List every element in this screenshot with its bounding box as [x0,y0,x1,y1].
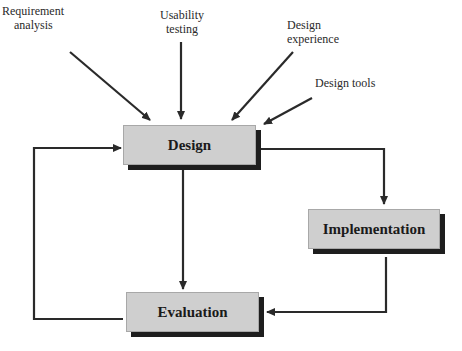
label-design-tools: Design tools [315,76,375,90]
node-evaluation-label: Evaluation [157,304,227,321]
node-implementation: Implementation [308,209,440,249]
node-implementation-label: Implementation [323,221,426,238]
arrow-design-to-implementation [261,149,384,204]
label-line: analysis [2,18,92,32]
label-line: Design tools [315,76,375,90]
label-line: Usability [150,8,214,22]
label-requirement-analysis: Requirement analysis [2,4,92,32]
label-line: experience [287,32,339,46]
arrow-tools-to-design [264,98,312,124]
label-line: Design [287,18,339,32]
label-design-experience: Design experience [287,18,339,46]
arrow-experience-to-design [232,52,293,120]
node-design: Design [123,125,256,165]
arrow-requirement-to-design [70,52,150,120]
label-usability-testing: Usability testing [150,8,214,36]
node-design-label: Design [168,137,211,154]
label-line: testing [150,22,214,36]
arrow-implementation-to-evaluation [267,257,386,312]
arrow-evaluation-to-design [34,148,123,319]
label-line: Requirement [2,4,92,18]
node-evaluation: Evaluation [126,292,259,332]
